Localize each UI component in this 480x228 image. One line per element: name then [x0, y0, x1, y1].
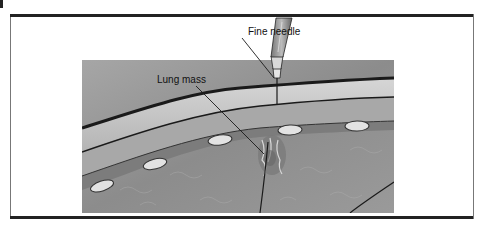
fine-needle-label: Fine needle: [248, 26, 300, 37]
biopsy-illustration: [0, 0, 480, 228]
rib-5: [345, 121, 369, 131]
lung-mass-label: Lung mass: [157, 74, 206, 85]
